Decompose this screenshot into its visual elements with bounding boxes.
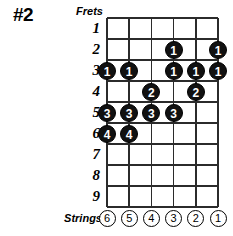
string-number-6: 6: [99, 210, 116, 227]
page-title: #2: [13, 4, 33, 26]
fret-number-3: 3: [80, 63, 100, 78]
finger-dot-s3-f5: 3: [165, 104, 183, 122]
fret-number-6: 6: [80, 126, 100, 141]
guitar-scale-diagram: #2 Frets 123456789 111111122333344 Strin…: [0, 0, 233, 236]
finger-dot-s2-f4: 2: [187, 83, 205, 101]
finger-dot-s1-f3: 1: [209, 62, 227, 80]
fret-number-5: 5: [80, 105, 100, 120]
finger-dot-s5-f5: 3: [120, 104, 138, 122]
fret-number-2: 2: [80, 42, 100, 57]
finger-dot-s4-f5: 3: [142, 104, 160, 122]
finger-dot-s6-f5: 3: [98, 104, 116, 122]
string-number-1: 1: [210, 210, 227, 227]
string-number-2: 2: [187, 210, 204, 227]
finger-dot-s2-f3: 1: [187, 62, 205, 80]
fret-number-7: 7: [80, 147, 100, 162]
finger-dot-s3-f2: 1: [165, 41, 183, 59]
finger-dot-s6-f6: 4: [98, 125, 116, 143]
fret-number-1: 1: [80, 21, 100, 36]
fret-number-8: 8: [80, 168, 100, 183]
finger-dot-s4-f4: 2: [142, 83, 160, 101]
string-number-5: 5: [121, 210, 138, 227]
string-number-3: 3: [165, 210, 182, 227]
fret-number-4: 4: [80, 84, 100, 99]
finger-dot-s3-f3: 1: [165, 62, 183, 80]
finger-dot-s5-f6: 4: [120, 125, 138, 143]
finger-dot-s6-f3: 1: [98, 62, 116, 80]
string-number-4: 4: [143, 210, 160, 227]
frets-axis-label: Frets: [57, 5, 103, 18]
finger-dot-s5-f3: 1: [120, 62, 138, 80]
fret-number-9: 9: [80, 189, 100, 204]
finger-dot-s1-f2: 1: [209, 41, 227, 59]
strings-axis-label: Strings: [46, 212, 102, 225]
